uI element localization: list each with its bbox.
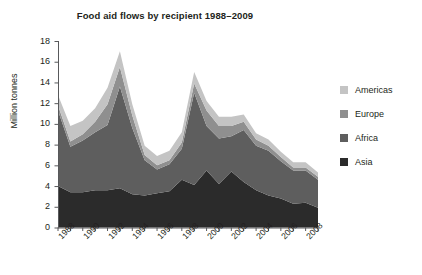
area-series-group [58,51,318,227]
chart-figure: Food aid flows by recipient 1988–2009 Mi… [0,0,422,275]
y-axis-tick-label: 2 [28,201,50,211]
legend-swatch-europe [340,110,348,118]
y-axis-tick-label: 12 [28,98,50,108]
y-axis-tick-label: 8 [28,139,50,149]
y-axis-tick-label: 4 [28,181,50,191]
y-axis-tick-label: 14 [28,77,50,87]
legend-label-asia: Asia [355,157,373,167]
legend-label-americas: Americas [355,85,393,95]
chart-legend: Americas Europe Africa Asia [340,78,422,174]
legend-label-europe: Europe [355,109,384,119]
legend-item-asia[interactable]: Asia [340,150,422,174]
legend-swatch-asia [340,158,348,166]
y-axis-tick-label: 18 [28,36,50,46]
y-axis-tick-label: 0 [28,222,50,232]
chart-title: Food aid flows by recipient 1988–2009 [0,10,330,21]
legend-item-europe[interactable]: Europe [340,102,422,126]
legend-label-africa: Africa [355,133,378,143]
legend-item-americas[interactable]: Americas [340,78,422,102]
legend-item-africa[interactable]: Africa [340,126,422,150]
y-axis-tick-label: 16 [28,56,50,66]
legend-swatch-africa [340,134,348,142]
y-axis-label: Million tonnes [9,41,19,161]
legend-swatch-americas [340,86,348,94]
y-axis-tick-label: 6 [28,160,50,170]
y-axis-tick-label: 10 [28,118,50,128]
